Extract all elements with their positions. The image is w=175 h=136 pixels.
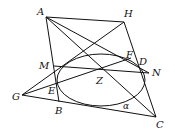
label-C: C — [156, 120, 164, 130]
label-M: M — [39, 61, 49, 71]
label-D: D — [139, 57, 147, 67]
label-N: N — [152, 68, 161, 78]
line-AN — [46, 17, 149, 73]
diagram-canvas — [0, 0, 175, 136]
label-A: A — [37, 7, 44, 17]
label-F: F — [126, 50, 133, 60]
label-G: G — [12, 92, 20, 102]
line-GH — [22, 22, 124, 95]
label-alpha: α — [123, 101, 129, 111]
label-E: E — [48, 86, 55, 96]
label-Z: Z — [96, 76, 103, 86]
line-AH — [46, 17, 124, 22]
label-H: H — [124, 9, 133, 19]
label-B: B — [55, 106, 62, 116]
geometry-diagram: A H F D M N Z G E B α C — [0, 0, 175, 136]
